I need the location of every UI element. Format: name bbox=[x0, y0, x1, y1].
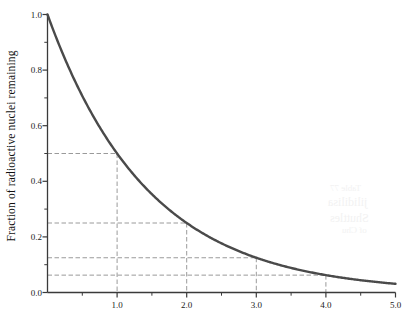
x-tick-label-3.0: 3.0 bbox=[251, 300, 262, 310]
y-tick-label-1.0: 1.0 bbox=[20, 10, 42, 20]
decay-curve bbox=[48, 15, 396, 284]
decay-chart-figure: Fraction of radioactive nuclei remaining… bbox=[0, 0, 409, 325]
x-tick-label-1.0: 1.0 bbox=[111, 300, 122, 310]
y-tick-label-0.2: 0.2 bbox=[20, 232, 42, 242]
x-tick-label-5.0: 5.0 bbox=[390, 300, 401, 310]
y-tick-label-0.0: 0.0 bbox=[20, 288, 42, 298]
x-tick-label-4.0: 4.0 bbox=[320, 300, 331, 310]
y-tick-label-0.8: 0.8 bbox=[20, 65, 42, 75]
y-tick-label-0.6: 0.6 bbox=[20, 121, 42, 131]
x-tick-label-2.0: 2.0 bbox=[181, 300, 192, 310]
y-tick-label-0.4: 0.4 bbox=[20, 176, 42, 186]
plot-area bbox=[0, 0, 409, 325]
